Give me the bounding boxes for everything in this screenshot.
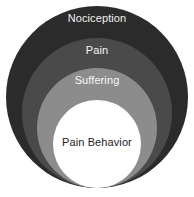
circle-pain-behavior — [53, 100, 141, 188]
nested-circles-diagram: Nociception Pain Suffering Pain Behavior — [0, 0, 194, 197]
